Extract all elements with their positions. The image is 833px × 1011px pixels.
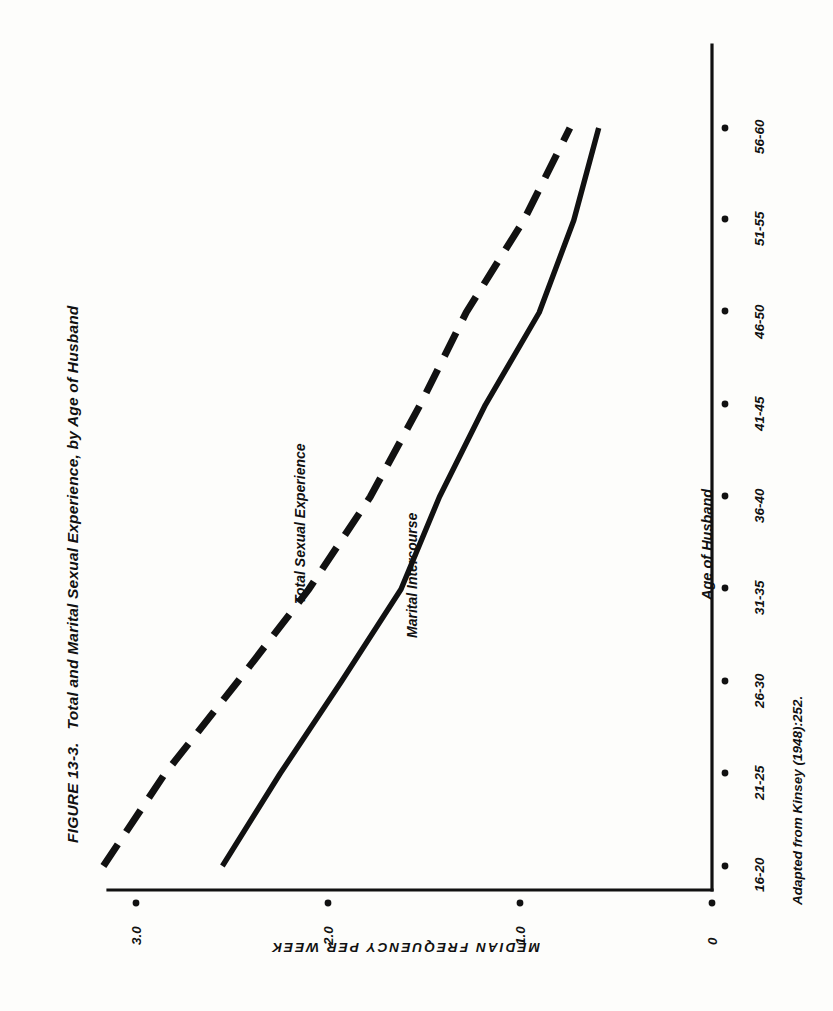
x-tick-label: 26-30 [752,673,767,708]
series-label-total-sexual-experience: Total Sexual Experience [292,443,308,604]
series-line-marital-intercourse [222,128,598,866]
x-axis-tick-marks [722,125,729,870]
y-tick-dot [709,900,716,907]
y-tick-dot [133,900,140,907]
y-tick-dot [325,900,332,907]
y-axis-tick-marks [133,900,716,907]
y-axis-title: MEDIAN FREQUENCY PER WEEK [190,940,620,955]
series-label-marital-intercourse: Marital Intercourse [404,513,420,638]
y-tick-label: 0 [705,937,720,945]
x-tick-dot [722,216,729,223]
y-tick-dot [517,900,524,907]
x-tick-dot [722,863,729,870]
series-line-total-sexual-experience [103,128,570,866]
y-tick-label: 2.0 [321,926,336,945]
x-tick-dot [722,308,729,315]
x-tick-label: 16-20 [752,857,767,892]
x-tick-dot [722,585,729,592]
x-tick-label: 41-45 [752,396,767,431]
x-tick-label: 46-50 [752,304,767,339]
axis-lines [108,45,712,890]
x-tick-dot [722,401,729,408]
x-tick-label: 31-35 [752,581,767,616]
y-tick-label: 1.0 [513,926,528,945]
x-tick-label: 56-60 [752,119,767,154]
x-tick-dot [722,125,729,132]
figure-page: FIGURE 13-3. Total and Marital Sexual Ex… [0,0,833,1011]
x-tick-dot [722,770,729,777]
y-tick-label: 3.0 [129,926,144,945]
x-tick-label: 36-40 [752,488,767,523]
x-tick-dot [722,493,729,500]
x-tick-label: 51-55 [752,212,767,247]
source-note: Adapted from Kinsey (1948):252. [790,696,805,905]
x-tick-label: 21-25 [752,765,767,800]
x-axis-title: Age of Husband [699,489,715,600]
x-tick-dot [722,678,729,685]
